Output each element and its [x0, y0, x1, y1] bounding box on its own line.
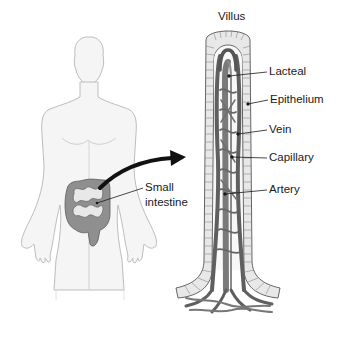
capillary-label: Capillary	[269, 151, 314, 164]
vein-label: Vein	[269, 123, 291, 136]
small-intestine-label-line1: Small	[145, 181, 174, 194]
small-intestine-label-line2: intestine	[145, 196, 188, 209]
villus-title-label: Villus	[218, 10, 245, 23]
lacteal-label: Lacteal	[269, 65, 306, 78]
artery-label: Artery	[269, 183, 300, 196]
epithelium-label: Epithelium	[270, 93, 324, 106]
small-intestine-pointer-dot	[96, 202, 99, 205]
villus-illustration	[176, 30, 280, 312]
diagram-canvas	[0, 0, 340, 342]
human-body-figure	[21, 37, 156, 300]
